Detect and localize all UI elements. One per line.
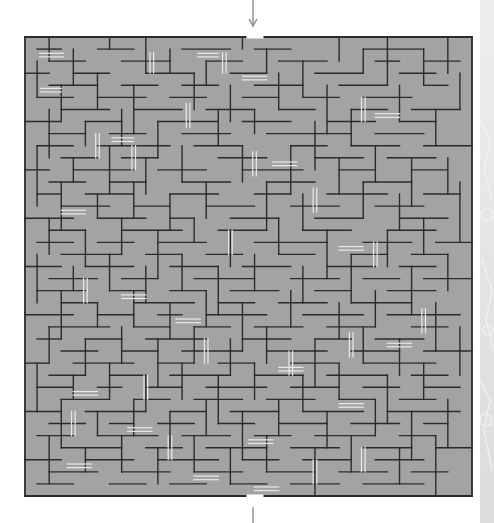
network-pattern-icon bbox=[480, 0, 494, 523]
side-strip-watermark bbox=[480, 0, 494, 523]
entrance-arrow bbox=[249, 0, 257, 26]
maze-board bbox=[0, 0, 494, 523]
